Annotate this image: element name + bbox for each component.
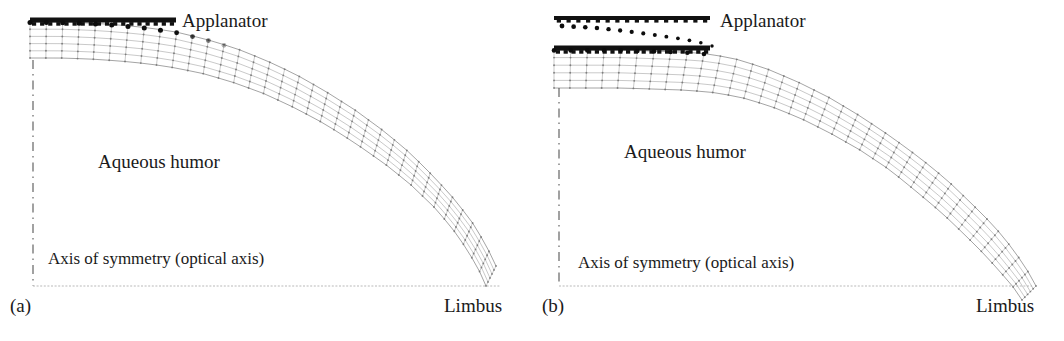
aqueous-humor-label: Aqueous humor xyxy=(624,142,746,161)
panel-a-drawing xyxy=(0,0,532,341)
axis-of-symmetry-label: Axis of symmetry (optical axis) xyxy=(578,254,794,271)
reference-outline-dots-b xyxy=(560,24,714,48)
aqueous-humor-label: Aqueous humor xyxy=(98,152,220,171)
limbus-label: Limbus xyxy=(976,296,1034,315)
panel-label-b: (b) xyxy=(542,296,564,315)
panel-b-drawing xyxy=(532,0,1064,341)
applanator-label: Applanator xyxy=(720,11,805,30)
applanator-bar-a xyxy=(30,18,176,26)
figure-root: Applanator Aqueous humor Axis of symmetr… xyxy=(0,0,1064,341)
panel-label-a: (a) xyxy=(10,296,31,315)
axis-of-symmetry-label: Axis of symmetry (optical axis) xyxy=(48,250,264,267)
applanator-label: Applanator xyxy=(182,11,267,30)
limbus-label: Limbus xyxy=(444,296,502,315)
panel-b: Applanator Aqueous humor Axis of symmetr… xyxy=(532,0,1064,341)
reference-applanator-bar-b xyxy=(554,16,710,23)
panel-a: Applanator Aqueous humor Axis of symmetr… xyxy=(0,0,532,341)
